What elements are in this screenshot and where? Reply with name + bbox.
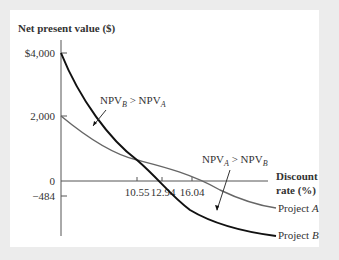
y-tick-neg484: −484	[32, 190, 55, 202]
x-axis-label-line1: Discount	[276, 170, 318, 182]
x-axis-label-line2: rate (%)	[276, 184, 316, 197]
npv-chart: Net present value ($) $4,000 2,000 0 −48…	[0, 0, 339, 260]
x-tick-1294: 12.94	[151, 186, 176, 198]
annotation-npva-gt-npvb: NPVA > NPVB	[202, 153, 268, 168]
x-tick-1055: 10.55	[125, 186, 150, 198]
project-b-line	[61, 53, 276, 236]
project-a-label: Project A	[278, 202, 319, 214]
y-tick-4000: $4,000	[25, 47, 56, 59]
project-b-label: Project B	[278, 229, 319, 241]
y-tick-2000: 2,000	[30, 110, 55, 122]
y-tick-0: 0	[50, 175, 56, 187]
y-axis-label: Net present value ($)	[18, 22, 116, 35]
x-tick-1604: 16.04	[180, 186, 205, 198]
annotation-npvb-gt-npva: NPVB > NPVA	[100, 94, 166, 109]
